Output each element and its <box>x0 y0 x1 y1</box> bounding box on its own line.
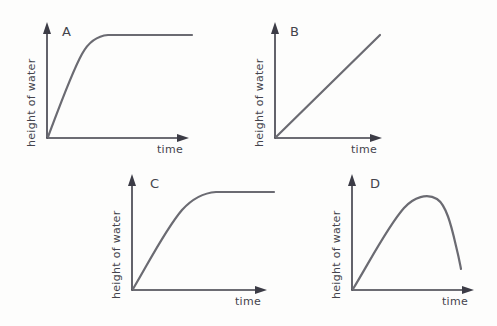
y-axis-arrowhead-d <box>348 174 356 186</box>
panel-letter-a: A <box>62 24 71 39</box>
y-axis-label-c: height of water <box>110 211 123 300</box>
panel-d: D height of water time <box>330 168 497 323</box>
x-axis-label-d: time <box>442 295 468 308</box>
panel-a: A height of water time <box>20 10 235 165</box>
curve-a <box>48 35 192 137</box>
panel-d-plot <box>330 168 497 323</box>
y-axis-label-b: height of water <box>253 59 266 148</box>
panel-b: B height of water time <box>248 10 463 165</box>
y-axis-arrowhead-c <box>128 174 136 186</box>
panel-c-plot <box>110 168 310 323</box>
y-axis-label-a: height of water <box>25 59 38 148</box>
x-axis-label-c: time <box>235 295 261 308</box>
x-axis-label-b: time <box>351 143 377 156</box>
panel-a-plot <box>20 10 235 165</box>
y-axis-label-d: height of water <box>330 211 343 300</box>
y-axis-arrowhead-b <box>271 22 279 34</box>
x-axis-arrowhead-b <box>370 134 382 142</box>
x-axis-arrowhead-d <box>462 286 474 294</box>
x-axis-arrowhead-c <box>255 286 267 294</box>
four-panel-water-height-figure: A height of water time B height of water… <box>0 0 497 326</box>
panel-letter-d: D <box>370 176 380 191</box>
x-axis-arrowhead-a <box>177 134 189 142</box>
panel-b-plot <box>248 10 463 165</box>
curve-c <box>133 192 274 289</box>
panel-letter-b: B <box>290 24 299 39</box>
curve-b <box>276 35 380 137</box>
x-axis-label-a: time <box>157 143 183 156</box>
panel-letter-c: C <box>150 176 159 191</box>
panel-c: C height of water time <box>110 168 310 323</box>
curve-d <box>353 196 461 289</box>
y-axis-arrowhead-a <box>43 22 51 34</box>
